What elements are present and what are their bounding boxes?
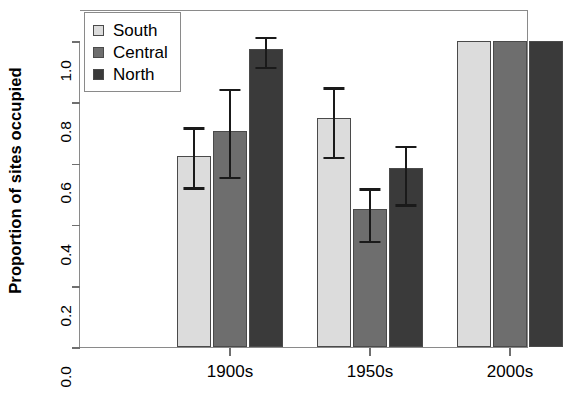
error-bar-north-1950s bbox=[389, 146, 423, 207]
error-bar-stem bbox=[193, 127, 195, 190]
y-tick-mark bbox=[72, 286, 80, 288]
error-bar-south-1900s bbox=[177, 127, 211, 190]
x-tick-label-1900s: 1900s bbox=[207, 362, 253, 382]
error-bar-central-1900s bbox=[213, 89, 247, 179]
y-tick-label: 1.0 bbox=[57, 60, 75, 82]
error-bar-cap-upper bbox=[359, 188, 380, 190]
error-bar-cap-upper bbox=[183, 127, 204, 129]
y-tick-label: 0.6 bbox=[57, 182, 75, 204]
y-axis: 0.00.20.40.60.81.0 bbox=[32, 0, 80, 397]
y-tick-mark bbox=[72, 41, 80, 43]
y-tick-mark bbox=[72, 164, 80, 166]
error-bar-stem bbox=[369, 188, 371, 243]
legend-item-south: South bbox=[93, 19, 168, 41]
y-tick-mark bbox=[72, 225, 80, 227]
bar-north-1900s bbox=[249, 49, 283, 347]
y-tick-label: 0.8 bbox=[57, 121, 75, 143]
legend-swatch-south bbox=[93, 25, 104, 36]
y-tick-label: 0.2 bbox=[57, 305, 75, 327]
error-bar-cap-lower bbox=[219, 177, 240, 179]
error-bar-stem bbox=[333, 87, 335, 159]
y-axis-title-text: Proportion of sites occupied bbox=[6, 67, 25, 293]
legend-swatch-north bbox=[93, 69, 104, 80]
y-tick-label: 0.4 bbox=[57, 244, 75, 266]
x-tick-mark bbox=[509, 348, 511, 356]
x-tick-mark bbox=[369, 348, 371, 356]
error-bar-central-1950s bbox=[353, 188, 387, 243]
error-bar-cap-lower bbox=[395, 204, 416, 206]
x-tick-label-2000s: 2000s bbox=[487, 362, 533, 382]
legend-item-north: North bbox=[93, 63, 168, 85]
legend-swatch-central bbox=[93, 47, 104, 58]
bar-central-2000s bbox=[493, 41, 527, 347]
legend-item-central: Central bbox=[93, 41, 168, 63]
x-axis: 1900s1950s2000s bbox=[80, 348, 528, 397]
error-bar-cap-lower bbox=[359, 241, 380, 243]
error-bar-cap-upper bbox=[219, 89, 240, 91]
x-tick-label-1950s: 1950s bbox=[347, 362, 393, 382]
error-bar-cap-upper bbox=[395, 146, 416, 148]
legend-label-north: North bbox=[113, 66, 155, 83]
error-bar-stem bbox=[265, 37, 267, 69]
error-bar-cap-lower bbox=[323, 157, 344, 159]
error-bar-cap-upper bbox=[255, 37, 276, 39]
error-bar-cap-lower bbox=[183, 187, 204, 189]
error-bar-stem bbox=[229, 89, 231, 179]
y-tick-label: 0.0 bbox=[57, 366, 75, 388]
error-bar-stem bbox=[405, 146, 407, 207]
bar-south-2000s bbox=[457, 41, 491, 347]
legend: SouthCentralNorth bbox=[84, 12, 181, 92]
x-tick-mark bbox=[229, 348, 231, 356]
y-axis-title: Proportion of sites occupied bbox=[0, 0, 30, 360]
legend-label-central: Central bbox=[113, 44, 168, 61]
error-bar-cap-lower bbox=[255, 67, 276, 69]
legend-label-south: South bbox=[113, 22, 157, 39]
error-bar-cap-upper bbox=[323, 87, 344, 89]
bar-north-2000s bbox=[529, 41, 563, 347]
error-bar-north-1900s bbox=[249, 37, 283, 69]
y-tick-mark bbox=[72, 347, 80, 349]
y-tick-mark bbox=[72, 102, 80, 104]
error-bar-south-1950s bbox=[317, 87, 351, 159]
